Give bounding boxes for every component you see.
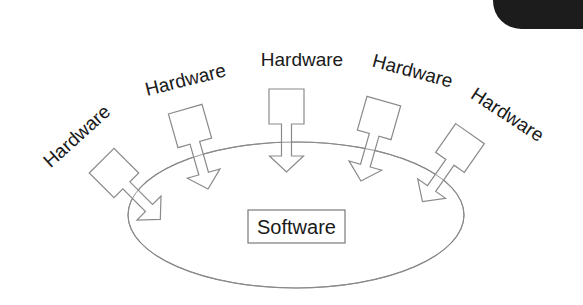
arrow-1 <box>89 148 172 231</box>
hardware-label-4: Hardware <box>370 50 455 92</box>
arrow-5 <box>408 124 484 212</box>
software-label: Software <box>257 216 336 238</box>
arrow-2 <box>168 104 225 193</box>
arrow-4 <box>344 96 401 185</box>
hardware-label-3: Hardware <box>261 49 343 70</box>
hardware-label-2: Hardware <box>143 60 228 100</box>
arrow-3 <box>269 89 304 172</box>
hardware-label-5: Hardware <box>467 83 548 145</box>
